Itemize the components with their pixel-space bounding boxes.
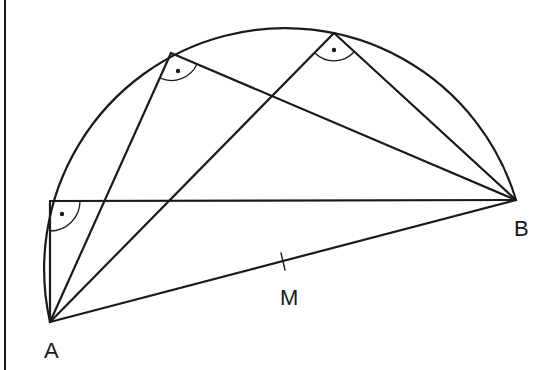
segment-A-P1 [50,53,171,322]
segment-P1-B [171,53,516,200]
diagram-canvas: A B M [0,0,560,370]
right-angle-marker-P2 [315,48,354,61]
label-A: A [44,338,59,363]
segment-P2-B [334,33,516,200]
label-M: M [280,285,298,310]
right-angle-marker-P3 [50,201,80,231]
segment-P3-B [50,200,516,201]
segment-A-P2 [50,33,334,322]
label-B: B [514,216,529,241]
